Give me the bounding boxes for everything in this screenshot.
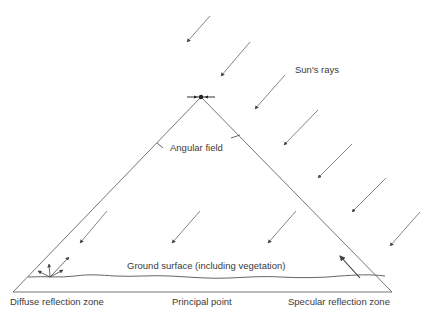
specular-reflection-arrow [340, 256, 360, 278]
sensor-icon [187, 95, 215, 99]
sun-ray-arrow [255, 75, 285, 109]
specular-reflection-zone-label: Specular reflection zone [288, 296, 390, 307]
ground-surface-line [28, 275, 385, 278]
sun-ray-arrow [284, 110, 318, 145]
sun-ray-arrow [390, 212, 420, 246]
sun-rays [80, 16, 420, 246]
sun-ray-arrow [172, 211, 200, 243]
ground-surface-label: Ground surface (including vegetation) [127, 260, 285, 271]
sun-ray-arrow [221, 42, 250, 76]
sun-ray-arrow [352, 178, 386, 212]
diffuse-reflection-zone-label: Diffuse reflection zone [10, 296, 104, 307]
sun-ray-arrow [268, 211, 296, 243]
diffuse-reflection-arrows [38, 256, 89, 277]
sun-ray-arrow [187, 16, 210, 42]
sun-ray-arrow [80, 211, 107, 243]
sun-ray-arrow [318, 144, 352, 178]
principal-point-label: Principal point [172, 296, 232, 307]
angular-field-label: Angular field [170, 142, 223, 153]
suns-rays-label: Sun's rays [295, 64, 339, 75]
